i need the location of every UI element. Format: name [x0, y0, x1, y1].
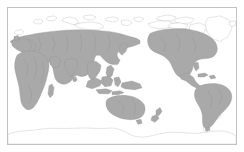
region-australia: [106, 95, 145, 119]
iceland-island: [14, 30, 24, 35]
shaded-lands-group: [10, 29, 232, 131]
region-borneo: [101, 76, 113, 87]
canadian-arctic-island-1: [156, 15, 176, 21]
antarctica: [8, 128, 236, 144]
region-java: [96, 89, 112, 94]
region-central-america: [180, 73, 200, 89]
region-lesser-sunda: [112, 91, 124, 95]
wrangel-island: [134, 17, 144, 22]
canadian-arctic-island-2: [174, 17, 194, 24]
region-sulawesi: [114, 77, 121, 87]
region-florida: [194, 62, 199, 71]
arctic-island-b: [121, 20, 132, 26]
severnaya-zemlya: [83, 15, 96, 20]
new-siberian-islands: [105, 17, 119, 22]
region-madagascar: [48, 84, 54, 98]
canadian-arctic-island-3: [168, 23, 188, 29]
region-philippines: [106, 65, 114, 78]
svalbard-island: [33, 19, 43, 24]
arctic-island-a: [46, 16, 57, 21]
map-frame: [7, 7, 237, 145]
region-southeast-asia: [87, 61, 101, 81]
region-africa: [15, 51, 49, 110]
world-map-figure: [0, 0, 244, 152]
novaya-zemlya: [62, 17, 79, 25]
region-caribbean: [209, 75, 216, 79]
region-sri-lanka: [73, 77, 77, 82]
region-south-america: [195, 84, 232, 129]
region-new-zealand: [156, 108, 162, 116]
region-cuba: [198, 73, 208, 77]
region-tasmania: [136, 119, 142, 124]
region-new-guinea: [121, 81, 142, 90]
region-new-zealand-south: [151, 114, 159, 122]
world-map-svg: [8, 8, 236, 144]
region-indonesia: [86, 78, 102, 89]
region-north-america: [148, 29, 218, 78]
